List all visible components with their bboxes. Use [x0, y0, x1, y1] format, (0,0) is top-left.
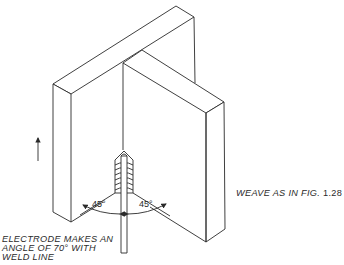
angle-label-left: 45° [92, 200, 106, 209]
electrode-note-line3: WELD LINE [2, 253, 54, 262]
weave-note-fig-ref: 1.28 [323, 188, 342, 198]
electrode-rod [121, 154, 127, 253]
weave-note-text: WEAVE AS IN FIG. [236, 188, 320, 198]
angle-label-right: 45° [139, 200, 153, 209]
weave-note: WEAVE AS IN FIG. 1.28 [236, 189, 342, 198]
t-joint-weld-diagram [0, 0, 344, 265]
